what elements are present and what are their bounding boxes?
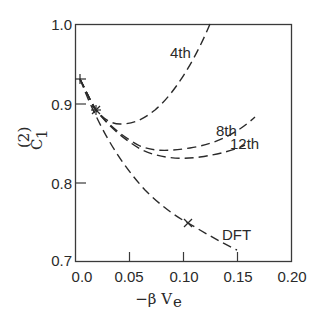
x-tick-label: 0.20 (277, 268, 306, 285)
y-tick-label: 0.8 (51, 175, 72, 192)
y-tick-label: 0.7 (51, 252, 72, 269)
curve-label-dft: DFT (222, 226, 251, 243)
curve-label-12th: 12th (230, 135, 259, 152)
y-axis-label-sub: 1 (33, 129, 51, 139)
x-axis-label-text: −β V (135, 290, 173, 308)
x-axis-label: −β V e (135, 290, 182, 311)
y-ticks (76, 104, 86, 183)
x-tick-label: 0.15 (223, 268, 252, 285)
x-tick-label: 0.05 (114, 268, 143, 285)
asterisk-marker (91, 105, 101, 115)
x-tick-label: 0.0 (72, 268, 93, 285)
y-axis-label: C 1 (2) (15, 127, 51, 150)
chart: 1.0 0.9 0.8 0.7 0.0 0.05 0.10 0.15 0.20 … (0, 0, 327, 319)
curve-dft (80, 79, 237, 250)
y-tick-label: 1.0 (51, 16, 72, 33)
curve-4th (80, 24, 210, 124)
x-tick-label: 0.10 (169, 268, 198, 285)
y-tick-label: 0.9 (51, 96, 72, 113)
curve-label-4th: 4th (170, 44, 191, 61)
x-axis-label-sub: e (173, 293, 182, 311)
x-ticks (130, 252, 238, 261)
curve-8th (80, 79, 255, 150)
plus-marker (75, 74, 86, 84)
cross-marker (184, 219, 192, 227)
y-axis-label-sup: (2) (15, 127, 33, 148)
